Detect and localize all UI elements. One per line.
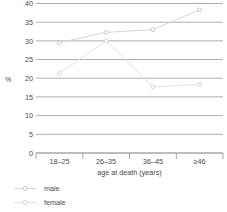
x-tick-label-46plus: ≥46 [194, 157, 206, 166]
legend-label-female: female [44, 198, 66, 207]
x-tick-label-18-25: 18–25 [49, 157, 69, 166]
y-tick-label-5: 5 [29, 130, 33, 139]
y-tick-label-30: 30 [25, 37, 33, 46]
x-tick-labels: 18–25 26–35 36–45 ≥46 [49, 157, 205, 166]
y-tick-label-0: 0 [29, 149, 33, 158]
y-tick-label-40: 40 [25, 0, 33, 8]
series-female-point-26-35 [104, 39, 108, 43]
y-tick-label-35: 35 [25, 18, 33, 27]
y-axis-title: % [5, 76, 11, 83]
legend-marker-male [23, 187, 27, 191]
series-male-point-26-35 [104, 30, 108, 34]
series-female-point-18-25 [57, 71, 61, 75]
series-male-point-36-45 [151, 28, 155, 32]
series-female [57, 39, 201, 89]
x-tick-label-26-35: 26–35 [96, 157, 116, 166]
series-female-point-36-45 [151, 85, 155, 89]
series-male-line [59, 10, 199, 43]
x-tick-label-36-45: 36–45 [143, 157, 163, 166]
line-chart: 40 35 30 25 20 15 10 5 0 % 18–25 26–35 3… [0, 0, 227, 212]
legend-item-male[interactable]: male [14, 184, 60, 193]
series-female-point-46plus [198, 83, 202, 87]
chart-canvas: 40 35 30 25 20 15 10 5 0 % 18–25 26–35 3… [0, 0, 227, 212]
series-female-line [59, 41, 199, 87]
series-male-point-46plus [198, 8, 202, 12]
legend-label-male: male [44, 184, 60, 193]
series-male [57, 8, 201, 45]
y-tick-label-25: 25 [25, 55, 33, 64]
y-tick-label-20: 20 [25, 74, 33, 83]
legend-item-female[interactable]: female [14, 198, 66, 207]
x-axis-title: age at death (years) [97, 168, 161, 177]
chart-legend: male female [14, 184, 66, 207]
y-tick-label-15: 15 [25, 93, 33, 102]
series-male-point-18-25 [57, 41, 61, 45]
y-tick-label-10: 10 [25, 111, 33, 120]
y-tick-labels: 40 35 30 25 20 15 10 5 0 [25, 0, 33, 158]
y-gridlines [36, 4, 223, 135]
legend-marker-female [23, 201, 27, 205]
